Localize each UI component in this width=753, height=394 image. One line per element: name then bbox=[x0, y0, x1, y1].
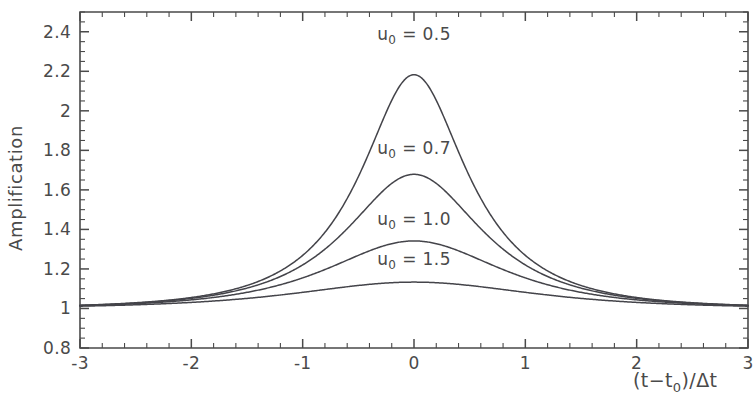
annotation-base: u bbox=[377, 209, 388, 229]
y-tick-label: 2.4 bbox=[43, 22, 71, 42]
x-tick-label: -2 bbox=[183, 353, 201, 373]
annotation-subscript: 0 bbox=[388, 218, 396, 232]
x-axis-ticks bbox=[80, 12, 748, 348]
annotation-value: = 1.5 bbox=[396, 249, 451, 269]
curve-0-7 bbox=[80, 174, 748, 305]
x-tick-label: -1 bbox=[294, 353, 312, 373]
y-axis-tick-labels: 0.811.21.41.61.822.22.4 bbox=[43, 22, 71, 358]
annotation-subscript: 0 bbox=[388, 258, 396, 272]
y-tick-label: 2 bbox=[60, 101, 71, 121]
annotation-base: u bbox=[377, 138, 388, 158]
x-axis-title-text: (t−t0)/Δt bbox=[633, 369, 717, 394]
annotation-base: u bbox=[377, 249, 388, 269]
x-axis-title-close: )/Δt bbox=[682, 369, 718, 391]
curve-1-5 bbox=[80, 282, 748, 306]
x-tick-label: 0 bbox=[408, 353, 419, 373]
annotation-base: u bbox=[377, 24, 388, 44]
annotation-value: = 0.5 bbox=[396, 24, 451, 44]
x-tick-label: 1 bbox=[520, 353, 531, 373]
x-tick-label: 3 bbox=[742, 353, 753, 373]
amplification-chart-figure: -3-2-10123 0.811.21.41.61.822.22.4 u0 = … bbox=[0, 0, 753, 394]
plot-frame bbox=[80, 12, 748, 348]
y-axis-title-text: Amplification bbox=[5, 125, 26, 251]
y-axis-ticks bbox=[80, 12, 748, 348]
annotation-value: = 0.7 bbox=[396, 138, 451, 158]
y-tick-label: 1.8 bbox=[43, 140, 71, 160]
x-axis-title: (t−t0)/Δt bbox=[633, 369, 717, 394]
annotation-1: u0 = 1.0 bbox=[377, 209, 451, 232]
curve-series-group bbox=[80, 75, 748, 306]
y-tick-label: 1 bbox=[60, 298, 71, 318]
x-axis-title-sub: 0 bbox=[673, 380, 682, 394]
annotation-value: = 1.0 bbox=[396, 209, 451, 229]
annotation-1-5: u0 = 1.5 bbox=[377, 249, 451, 272]
y-axis-title: Amplification bbox=[5, 125, 26, 251]
y-tick-label: 1.4 bbox=[43, 219, 71, 239]
y-tick-label: 2.2 bbox=[43, 61, 71, 81]
y-tick-label: 1.2 bbox=[43, 259, 71, 279]
curve-0-5 bbox=[80, 75, 748, 306]
x-axis-title-open: (t−t bbox=[633, 369, 673, 391]
y-tick-label: 0.8 bbox=[43, 338, 71, 358]
x-tick-label: -3 bbox=[71, 353, 89, 373]
annotation-0-7: u0 = 0.7 bbox=[377, 138, 451, 161]
annotation-subscript: 0 bbox=[388, 147, 396, 161]
y-tick-label: 1.6 bbox=[43, 180, 71, 200]
chart-canvas: -3-2-10123 0.811.21.41.61.822.22.4 u0 = … bbox=[0, 0, 753, 394]
curve-annotations-group: u0 = 0.5u0 = 0.7u0 = 1.0u0 = 1.5 bbox=[377, 24, 451, 272]
annotation-0-5: u0 = 0.5 bbox=[377, 24, 451, 47]
annotation-subscript: 0 bbox=[388, 33, 396, 47]
plot-border bbox=[80, 12, 748, 348]
